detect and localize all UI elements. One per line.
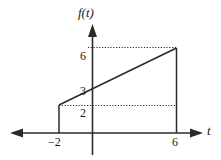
x-tick-label-minus-2: −2 (48, 136, 61, 148)
function-graph-figure: f(t) t 6 3 2 −2 6 (0, 0, 221, 160)
y-tick-label-6: 6 (80, 50, 86, 62)
x-axis-arrow-left-icon (10, 129, 23, 138)
x-axis-label: t (207, 124, 211, 137)
signal-ramp-segment (59, 48, 177, 105)
signal-curve (59, 48, 177, 133)
y-tick-label-3: 3 (80, 85, 86, 97)
y-tick-label-2: 2 (80, 107, 86, 119)
x-axis-arrow-right-icon (190, 129, 203, 138)
x-tick-label-6: 6 (172, 136, 178, 148)
plot-canvas (0, 0, 221, 160)
y-axis-arrow-up-icon (88, 24, 97, 37)
y-axis-label: f(t) (78, 6, 94, 19)
